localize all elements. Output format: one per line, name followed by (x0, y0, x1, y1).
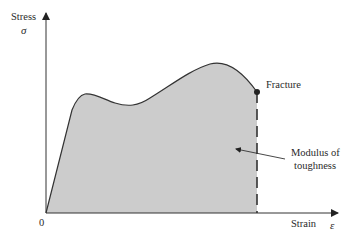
stress-strain-diagram: Stress σ 0 Strain ε Fracture Modulus of … (0, 0, 352, 241)
y-axis-label: Stress (11, 11, 36, 22)
fracture-point (254, 89, 260, 95)
origin-label: 0 (39, 217, 44, 228)
modulus-label-line2: toughness (294, 160, 336, 171)
modulus-label-line1: Modulus of (291, 147, 340, 158)
x-axis-symbol: ε (330, 219, 335, 231)
x-axis-label: Strain (291, 218, 317, 229)
toughness-area (46, 63, 257, 213)
y-axis-symbol: σ (21, 24, 27, 36)
fracture-label: Fracture (266, 79, 301, 90)
